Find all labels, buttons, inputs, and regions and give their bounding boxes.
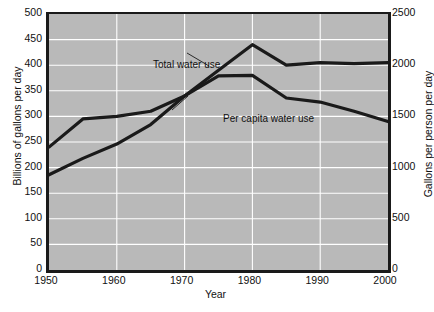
- y-axis-right-title: Gallons per person per day: [422, 54, 434, 214]
- x-tick-1980: 1980: [229, 275, 269, 286]
- y-axis-left-title: Billions of gallons per day: [11, 51, 23, 201]
- x-tick-1950: 1950: [26, 275, 66, 286]
- x-tick-1990: 1990: [297, 275, 337, 286]
- x-tick-1970: 1970: [162, 275, 202, 286]
- x-axis-title: Year: [0, 288, 431, 300]
- x-tick-2000: 2000: [365, 275, 405, 286]
- x-tick-1960: 1960: [94, 275, 134, 286]
